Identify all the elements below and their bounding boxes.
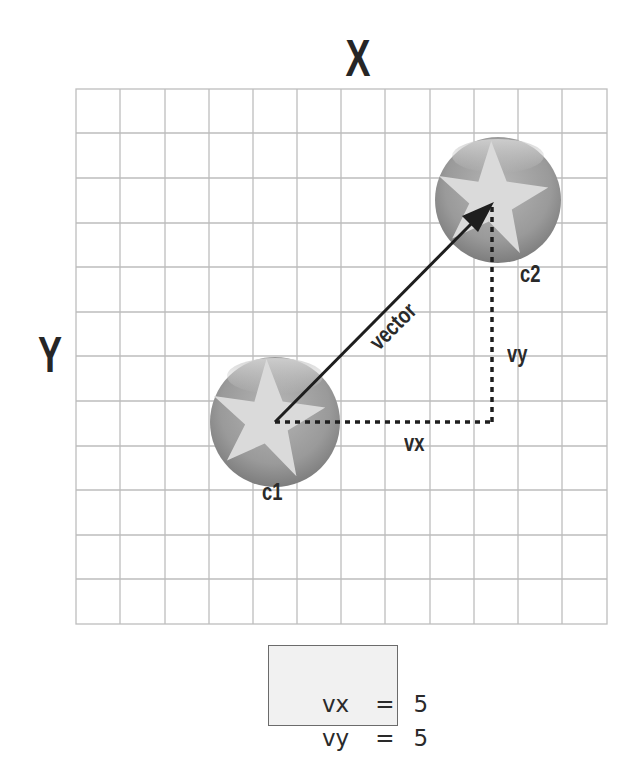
vector-arrow xyxy=(275,221,474,422)
ball-c1-icon xyxy=(204,352,340,487)
values-box: vx=5 vy=5 xyxy=(268,645,398,726)
x-axis-label: X xyxy=(342,28,374,88)
vector-diagram: X Y c1 c2 vx vy vector vx=5 vy=5 xyxy=(0,0,640,762)
equals-sign: = xyxy=(364,720,406,756)
c1-label: c1 xyxy=(262,479,282,505)
vx-label: vx xyxy=(404,430,424,456)
y-axis-label: Y xyxy=(34,326,66,384)
value-row-vy: vy=5 xyxy=(278,684,436,720)
c2-label: c2 xyxy=(520,261,540,287)
value-row-vx: vx=5 xyxy=(278,650,436,686)
value-number: 5 xyxy=(406,720,436,756)
vy-label: vy xyxy=(507,341,527,367)
value-name: vy xyxy=(322,720,364,756)
